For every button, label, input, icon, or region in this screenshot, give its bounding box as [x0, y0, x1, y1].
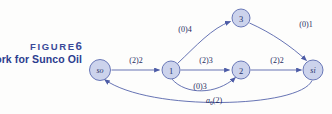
node-so-label: so	[96, 66, 103, 75]
figure-page: FIGURE6 ork for Sunco Oil	[0, 0, 332, 114]
edge-3-si	[250, 23, 307, 61]
network-diagram: so 1 2 3 si (2)2 (0)4 (2)3 (0)3 (2)2 (0)…	[0, 0, 332, 114]
node-2-label: 2	[239, 66, 243, 76]
node-1-label: 1	[169, 66, 173, 76]
edge-label-3-si: (0)1	[299, 20, 312, 29]
edge-label-1-3: (0)4	[178, 25, 191, 34]
node-3-label: 3	[239, 14, 243, 24]
edge-label-1-2-curved: (0)3	[193, 82, 206, 91]
return-arc-capacity: (2)	[213, 96, 223, 105]
edge-label-group: (2)2 (0)4 (2)3 (0)3 (2)2 (0)1 a0(2)	[129, 20, 312, 106]
edge-label-2-si: (2)2	[270, 56, 283, 65]
node-si-label: si	[310, 66, 315, 75]
edge-label-1-2-straight: (2)3	[199, 56, 212, 65]
edge-label-so-1: (2)2	[129, 56, 142, 65]
edge-label-si-so-return: a0(2)	[206, 96, 222, 106]
